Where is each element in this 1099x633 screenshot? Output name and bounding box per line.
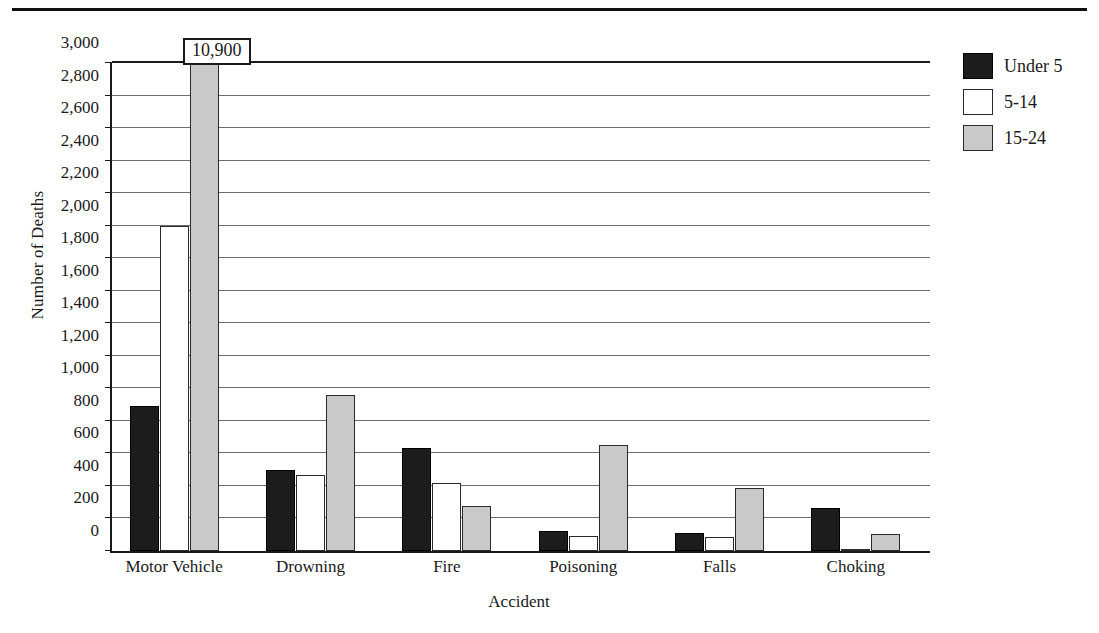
y-tick-label-400: 400 — [19, 456, 99, 476]
bar-poisoning-15-24 — [599, 445, 628, 551]
bar-group-falls — [657, 63, 793, 551]
x-label-drowning: Drowning — [276, 557, 345, 577]
y-tick-3000 — [105, 62, 112, 63]
bar-group-choking — [794, 63, 930, 551]
x-label-fire: Fire — [433, 557, 460, 577]
y-tick-label-600: 600 — [19, 423, 99, 443]
bar-group-poisoning — [521, 63, 657, 551]
bar-fire-15-24 — [462, 506, 491, 551]
y-tick-label-2800: 2,800 — [19, 65, 99, 85]
bar-poisoning-5-14 — [569, 536, 598, 551]
y-tick-1600 — [105, 290, 112, 291]
y-tick-label-1800: 1,800 — [19, 228, 99, 248]
y-tick-2000 — [105, 225, 112, 226]
bar-choking-15-24 — [871, 534, 900, 551]
bar-choking-under-5 — [811, 508, 840, 551]
x-label-motor-vehicle: Motor Vehicle — [125, 557, 222, 577]
y-tick-label-0: 0 — [19, 521, 99, 541]
bar-falls-5-14 — [705, 537, 734, 551]
y-tick-1400 — [105, 322, 112, 323]
y-tick-1200 — [105, 355, 112, 356]
y-tick-label-1200: 1,200 — [19, 325, 99, 345]
y-tick-0 — [105, 550, 112, 551]
bar-motor-vehicle-5-14 — [160, 226, 189, 551]
x-label-falls: Falls — [703, 557, 736, 577]
bar-group-drowning — [248, 63, 384, 551]
bar-drowning-5-14 — [296, 475, 325, 551]
bar-falls-15-24 — [735, 488, 764, 551]
bar-motor-vehicle-under-5 — [130, 406, 159, 551]
value-callout-10900: 10,900 — [183, 38, 251, 65]
bar-motor-vehicle-15-24 — [190, 63, 219, 551]
legend-item-15-24: 15-24 — [963, 120, 1093, 156]
legend-swatch-5-14 — [963, 89, 993, 115]
y-tick-2200 — [105, 192, 112, 193]
x-axis-title: Accident — [110, 592, 928, 612]
y-tick-1000 — [105, 387, 112, 388]
bar-falls-under-5 — [675, 533, 704, 551]
bar-fire-5-14 — [432, 483, 461, 551]
x-label-poisoning: Poisoning — [549, 557, 617, 577]
bar-group-motor-vehicle — [112, 63, 248, 551]
y-tick-label-200: 200 — [19, 488, 99, 508]
y-tick-600 — [105, 452, 112, 453]
y-tick-200 — [105, 517, 112, 518]
bar-choking-5-14 — [841, 549, 870, 551]
legend-swatch-15-24 — [963, 125, 993, 151]
y-tick-label-1600: 1,600 — [19, 260, 99, 280]
bar-poisoning-under-5 — [539, 531, 568, 551]
x-label-choking: Choking — [827, 557, 886, 577]
bar-group-fire — [385, 63, 521, 551]
bar-drowning-under-5 — [266, 470, 295, 551]
y-tick-2400 — [105, 160, 112, 161]
y-tick-label-3000: 3,000 — [19, 33, 99, 53]
y-tick-1800 — [105, 257, 112, 258]
bar-series-container — [112, 63, 930, 551]
plot-area: 02004006008001,0001,2001,4001,6001,8002,… — [110, 63, 930, 553]
y-tick-label-2200: 2,200 — [19, 163, 99, 183]
y-tick-2800 — [105, 95, 112, 96]
bar-drowning-15-24 — [326, 395, 355, 551]
legend: Under 55-1415-24 — [963, 48, 1093, 156]
legend-item-under-5: Under 5 — [963, 48, 1093, 84]
legend-label-under-5: Under 5 — [1004, 56, 1062, 77]
legend-swatch-under-5 — [963, 53, 993, 79]
bar-fire-under-5 — [402, 448, 431, 551]
y-tick-label-800: 800 — [19, 390, 99, 410]
y-tick-label-1400: 1,400 — [19, 293, 99, 313]
y-tick-label-1000: 1,000 — [19, 358, 99, 378]
y-tick-label-2000: 2,000 — [19, 195, 99, 215]
y-tick-label-2600: 2,600 — [19, 98, 99, 118]
y-tick-2600 — [105, 127, 112, 128]
legend-item-5-14: 5-14 — [963, 84, 1093, 120]
y-tick-800 — [105, 420, 112, 421]
y-tick-label-2400: 2,400 — [19, 130, 99, 150]
legend-label-5-14: 5-14 — [1004, 92, 1037, 113]
bar-chart-figure: Number of Deaths 02004006008001,0001,200… — [0, 0, 1099, 633]
legend-label-15-24: 15-24 — [1004, 128, 1046, 149]
y-tick-400 — [105, 485, 112, 486]
